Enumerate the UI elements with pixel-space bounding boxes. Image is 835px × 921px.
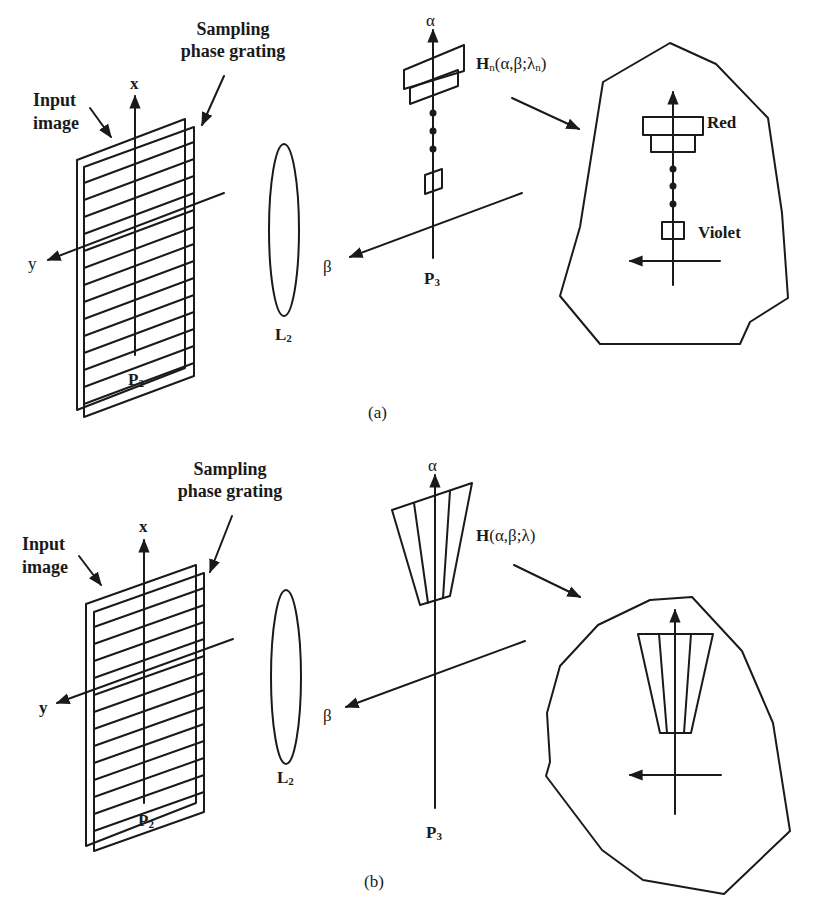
alpha-axis-label: α: [426, 12, 435, 29]
ellipsis-dot: [430, 110, 437, 117]
lens-l2: [269, 144, 299, 316]
lens-letter: L: [277, 768, 288, 787]
ellipsis-dot: [670, 183, 677, 190]
plane-p3-letter: P: [424, 269, 434, 288]
panel-b-caption: (b): [364, 873, 384, 890]
filter-args-close: ): [541, 54, 547, 73]
beta-axis-label: β: [323, 258, 332, 275]
plane-p2-letter: P: [138, 811, 148, 830]
panel-a: [48, 30, 788, 417]
input-image-label: Input image: [33, 91, 79, 132]
alpha-axis-label: α: [428, 457, 437, 474]
x-axis-label: x: [139, 518, 148, 535]
panel-b: [57, 475, 790, 894]
lens-l2-label: L2: [275, 326, 292, 344]
output-pointer: [514, 565, 580, 597]
filter-args: (α,β;λ): [489, 526, 535, 545]
lens-l2-label: L2: [277, 769, 294, 787]
grating-label-line2: phase grating: [168, 42, 298, 60]
red-band-label: Red: [707, 114, 736, 131]
grating-pointer: [202, 76, 224, 125]
lens-l2: [271, 590, 301, 764]
x-axis-label: x: [130, 75, 139, 92]
y-axis-label: y: [39, 699, 48, 716]
grating-label: Sampling phase grating: [165, 460, 295, 500]
plane-p2-subscript: 2: [148, 818, 154, 830]
violet-band-label: Violet: [698, 224, 741, 241]
input-image-label-line1: Input: [33, 91, 79, 109]
plane-p2-label: P2: [138, 812, 154, 830]
input-image-label-line2: image: [22, 558, 68, 576]
filter-fn-letter: H: [476, 526, 489, 545]
plane-p2-label: P2: [128, 371, 144, 389]
plane-p3-letter: P: [426, 823, 436, 842]
plane-p3-label: P3: [424, 270, 440, 288]
filter-fn-letter: H: [476, 54, 489, 73]
ellipsis-dot: [670, 201, 677, 208]
input-image-label-line2: image: [33, 114, 79, 132]
grating-pointer: [210, 516, 232, 572]
plane-p3-label: P3: [426, 824, 442, 842]
plane-p2-subscript: 2: [138, 377, 144, 389]
lens-letter: L: [275, 325, 286, 344]
plane-p2-letter: P: [128, 370, 138, 389]
grating-lines: [94, 588, 204, 831]
input-image-label: Input image: [22, 535, 68, 576]
y-axis-label: y: [28, 255, 37, 272]
grating-lines: [84, 142, 194, 404]
input-image-plane: [86, 565, 196, 846]
input-image-pointer: [79, 556, 101, 585]
panel-a-caption: (a): [368, 404, 387, 421]
beta-axis: [350, 193, 522, 257]
lens-subscript: 2: [288, 775, 294, 787]
filter-function-label: Hn(α,β;λn): [476, 55, 546, 73]
filter-trapezoid-stripes: [414, 491, 450, 603]
ellipsis-dot: [670, 166, 677, 173]
input-image-pointer: [90, 108, 111, 137]
grating-label-line2: phase grating: [165, 482, 295, 500]
ellipsis-dot: [430, 146, 437, 153]
filter-args: (α,β;λ: [495, 54, 535, 73]
beta-axis-label: β: [323, 707, 332, 724]
output-pointer: [512, 98, 579, 129]
ellipsis-dot: [430, 128, 437, 135]
plane-p3-subscript: 3: [436, 830, 442, 842]
output-spectrum-region: [546, 597, 790, 894]
grating-label-line1: Sampling: [165, 460, 295, 478]
plane-p3-subscript: 3: [434, 276, 440, 288]
lens-subscript: 2: [286, 332, 292, 344]
grating-label: Sampling phase grating: [168, 20, 298, 60]
filter-function-label: H(α,β;λ): [476, 527, 535, 544]
input-image-label-line1: Input: [22, 535, 68, 553]
filter-trapezoid: [392, 483, 472, 605]
grating-label-line1: Sampling: [168, 20, 298, 38]
